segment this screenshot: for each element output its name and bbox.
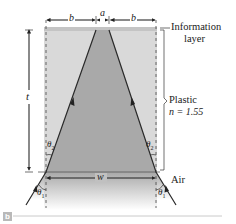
label-air: Air (171, 175, 185, 186)
label-information-line1: Information (171, 22, 221, 33)
label-a: a (100, 8, 105, 18)
dimension-a-arrow-left (96, 19, 100, 22)
label-theta2-right: θ2 (146, 140, 153, 151)
label-t: t (26, 91, 29, 102)
plastic-bracket (160, 30, 167, 170)
label-w: w (97, 172, 104, 182)
label-theta1-left: θ1 (37, 188, 44, 199)
label-theta1-right: θ1 (158, 188, 165, 199)
label-plastic: Plastic (169, 95, 197, 106)
label-b-left: b (68, 13, 75, 23)
panel-label-tag: b (3, 212, 12, 221)
label-refractive-index: n = 1.55 (169, 107, 203, 117)
label-b-right: b (130, 13, 137, 23)
label-theta2-left: θ2 (47, 140, 54, 151)
dimension-a-arrow-right (105, 19, 109, 22)
label-information-line2: layer (184, 34, 205, 45)
